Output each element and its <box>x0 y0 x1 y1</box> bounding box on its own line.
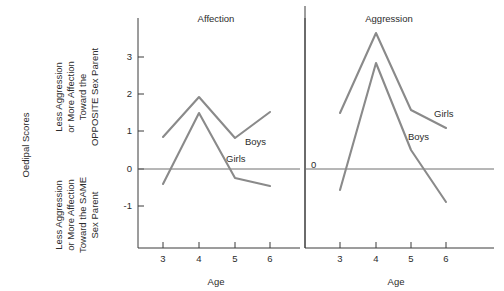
lower-axis-caption-group: Less Aggression or More Affection Toward… <box>53 177 100 253</box>
left-x-tick-labels: 3 4 5 6 <box>160 253 272 264</box>
left-x-tick-label-6: 6 <box>267 253 272 264</box>
upper-axis-caption-line-4: OPPOSITE Sex Parent <box>89 48 100 147</box>
left-x-tick-label-4: 4 <box>196 253 201 264</box>
left-series-line-boys <box>163 97 270 138</box>
upper-axis-caption-line-2: or More Affection <box>65 61 76 133</box>
upper-axis-caption-group: Less Aggression or More Affection Toward… <box>53 48 100 147</box>
right-x-tick-label-5: 5 <box>408 253 413 264</box>
left-y-tick-label-2: 2 <box>127 88 132 99</box>
right-panel-aggression: 0 3 4 5 6 Aggression Age <box>305 13 494 287</box>
right-x-tick-label-3: 3 <box>337 253 342 264</box>
right-series-label-boys: Boys <box>408 131 429 142</box>
left-y-tick-label-0: 0 <box>127 163 132 174</box>
outer-y-axis-label: Oedipal Scores <box>20 112 31 177</box>
left-x-tick-label-3: 3 <box>160 253 165 264</box>
lower-axis-caption-line-2: or More Affection <box>65 179 76 251</box>
right-x-tick-labels: 3 4 5 6 <box>337 253 448 264</box>
right-panel-title: Aggression <box>365 13 413 24</box>
right-x-tick-label-4: 4 <box>373 253 378 264</box>
right-zero-label: 0 <box>311 159 316 170</box>
right-x-ticks <box>340 242 446 248</box>
left-panel-title: Affection <box>198 13 235 24</box>
right-series-line-girls <box>340 33 446 128</box>
right-x-tick-label-6: 6 <box>443 253 448 264</box>
lower-axis-caption-line-4: Sex Parent <box>89 191 100 238</box>
right-series-line-boys <box>340 63 446 202</box>
left-series-label-boys: Boys <box>245 136 266 147</box>
right-x-axis-title: Age <box>388 276 405 287</box>
left-x-tick-label-5: 5 <box>232 253 237 264</box>
left-y-tick-label-minus-1: -1 <box>124 200 132 211</box>
left-x-ticks <box>163 242 270 248</box>
left-y-tick-label-3: 3 <box>127 51 132 62</box>
outer-y-axis-label-group: Oedipal Scores <box>20 112 31 177</box>
chart-svg: Oedipal Scores Less Aggression or More A… <box>0 0 504 291</box>
left-y-tick-label-1: 1 <box>127 125 132 136</box>
left-y-tick-labels: 3 2 1 0 -1 <box>124 51 132 211</box>
right-series-label-girls: Girls <box>434 108 454 119</box>
oedipal-scores-figure: Oedipal Scores Less Aggression or More A… <box>0 0 504 291</box>
upper-axis-caption-line-3: Toward the <box>77 74 88 120</box>
left-series-label-girls: Girls <box>226 153 246 164</box>
lower-axis-caption-line-1: Less Aggression <box>53 180 64 250</box>
upper-axis-caption-line-1: Less Aggression <box>53 62 64 132</box>
left-y-ticks <box>138 57 144 206</box>
left-panel-affection: 3 2 1 0 -1 3 4 5 6 <box>124 13 300 287</box>
lower-axis-caption-line-3: Toward the SAME <box>77 177 88 253</box>
left-x-axis-title: Age <box>208 276 225 287</box>
